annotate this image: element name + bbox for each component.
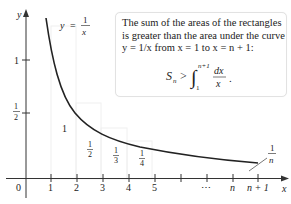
y-tick-half-num: 1	[14, 102, 18, 111]
rect-label-3-den: 3	[114, 156, 118, 165]
x-tick-label-n-plus-1: n + 1	[247, 182, 269, 193]
formula-lhs-sub: n	[173, 77, 177, 85]
formula-svg: S n > ∫ n+1 1 dx x .	[116, 61, 288, 93]
x-axis-arrow-icon	[281, 176, 289, 182]
x-tick-label-3: 3	[100, 182, 105, 193]
y-tick-label-1: 1	[14, 55, 19, 66]
x-tick-label-2: 2	[74, 182, 79, 193]
rect-label-2-den: 2	[88, 150, 92, 159]
rect-label-3-num: 1	[114, 146, 118, 155]
formula-op: >	[180, 69, 187, 83]
x-tick-ellipsis: ⋯	[201, 182, 211, 193]
y-axis-arrow-icon	[23, 9, 29, 17]
rect-label-4-num: 1	[140, 149, 144, 158]
callout-line-3: y = 1/x from x = 1 to x = n + 1:	[122, 42, 280, 55]
rect-label-1: 1	[62, 123, 67, 134]
explanation-callout: The sum of the areas of the rectangles i…	[115, 12, 287, 97]
x-tick-label-4: 4	[126, 182, 131, 193]
callout-formula: S n > ∫ n+1 1 dx x .	[116, 61, 286, 96]
y-axis-label: y	[16, 9, 22, 20]
end-label-pointer	[249, 158, 267, 171]
formula-den: x	[215, 78, 221, 89]
formula-trail: .	[229, 72, 232, 84]
callout-line-1: The sum of the areas of the rectangles	[122, 17, 280, 30]
rectangle-1	[51, 26, 76, 179]
curve-label-den: x	[81, 27, 86, 37]
formula-lower: 1	[196, 84, 200, 92]
curve-label-num: 1	[83, 15, 88, 25]
curve-label-lhs: y	[59, 20, 65, 31]
x-tick-label-5: 5	[152, 182, 157, 193]
formula-num: dx	[214, 65, 224, 76]
y-tick-half-den: 2	[14, 113, 18, 122]
rect-label-4-den: 4	[140, 159, 144, 168]
end-label-num: 1	[270, 143, 275, 153]
x-tick-label-1: 1	[48, 182, 53, 193]
end-label-den: n	[269, 155, 274, 165]
rect-label-2-num: 1	[88, 140, 92, 149]
origin-label: 0	[16, 182, 21, 193]
formula-lhs: S	[166, 69, 172, 83]
curve-label-eq: =	[70, 20, 76, 31]
x-axis-label: x	[281, 183, 287, 194]
formula-upper: n+1	[198, 62, 210, 70]
x-tick-label-n: n	[230, 182, 235, 193]
callout-line-2: is greater than the area under the curve	[122, 30, 280, 43]
